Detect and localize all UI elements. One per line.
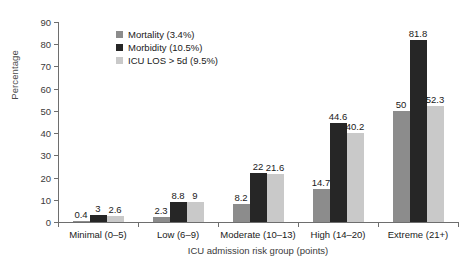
bar-value-label: 0.4	[74, 209, 87, 220]
bar[interactable]	[73, 221, 90, 222]
bar-slot: 81.8	[410, 22, 427, 222]
bar-value-label: 21.6	[266, 162, 285, 173]
bar[interactable]	[330, 123, 347, 222]
bar-value-label: 8.2	[234, 192, 247, 203]
bar-slot: 44.6	[330, 22, 347, 222]
bar[interactable]	[410, 40, 427, 222]
legend-item[interactable]: Mortality (3.4%)	[116, 29, 218, 41]
x-tick	[138, 222, 139, 227]
y-tick-label: 70	[11, 61, 51, 72]
x-axis-line	[58, 222, 459, 223]
x-tick	[378, 222, 379, 227]
x-tick	[458, 222, 459, 227]
bar[interactable]	[170, 202, 187, 222]
bar-slot: 50	[393, 22, 410, 222]
bar-value-label: 2.6	[108, 204, 121, 215]
bar-slot: 3	[90, 22, 107, 222]
bar-chart: Percentage 0102030405060708090 0.432.6Mi…	[0, 0, 465, 267]
y-tick-label: 60	[11, 83, 51, 94]
bar[interactable]	[250, 173, 267, 222]
legend-swatch-icon	[116, 44, 123, 51]
bar-value-label: 22	[253, 161, 264, 172]
bar-value-label: 14.7	[312, 177, 331, 188]
bar[interactable]	[427, 106, 444, 222]
bar[interactable]	[313, 189, 330, 222]
bar[interactable]	[393, 111, 410, 222]
legend-label: ICU LOS > 5d (9.5%)	[128, 55, 218, 66]
legend-swatch-icon	[116, 31, 123, 38]
bar-value-label: 44.6	[329, 111, 348, 122]
legend: Mortality (3.4%)Morbidity (10.5%)ICU LOS…	[116, 29, 218, 68]
y-tick-label: 20	[11, 172, 51, 183]
bar-slot: 52.3	[427, 22, 444, 222]
bar-slot: 40.2	[347, 22, 364, 222]
bar-slot: 21.6	[267, 22, 284, 222]
x-tick-label: Extreme (21+)	[388, 229, 448, 240]
bar-value-label: 8.8	[171, 190, 184, 201]
legend-label: Morbidity (10.5%)	[128, 42, 202, 53]
y-tick-label: 80	[11, 39, 51, 50]
bar[interactable]	[107, 216, 124, 222]
bar[interactable]	[347, 133, 364, 222]
bar-value-label: 2.3	[154, 205, 167, 216]
bar-slot: 0.4	[73, 22, 90, 222]
y-tick-label: 40	[11, 128, 51, 139]
x-tick-label: Moderate (10–13)	[220, 229, 296, 240]
bar-value-label: 81.8	[409, 28, 428, 39]
y-tick-label: 10	[11, 194, 51, 205]
bar[interactable]	[90, 215, 107, 222]
bar-group: 14.744.640.2High (14–20)	[298, 22, 378, 222]
y-tick-label: 50	[11, 105, 51, 116]
x-tick-label: High (14–20)	[311, 229, 366, 240]
bar-value-label: 3	[95, 203, 100, 214]
x-tick	[58, 222, 59, 227]
legend-label: Mortality (3.4%)	[128, 29, 195, 40]
bar-value-label: 9	[192, 190, 197, 201]
bar[interactable]	[187, 202, 204, 222]
bar[interactable]	[267, 174, 284, 222]
legend-item[interactable]: ICU LOS > 5d (9.5%)	[116, 55, 218, 67]
x-tick	[298, 222, 299, 227]
x-tick-label: Low (6–9)	[157, 229, 199, 240]
bar-slot: 22	[250, 22, 267, 222]
bar-value-label: 40.2	[346, 121, 365, 132]
bar-group: 5081.852.3Extreme (21+)	[378, 22, 458, 222]
bar[interactable]	[233, 204, 250, 222]
legend-item[interactable]: Morbidity (10.5%)	[116, 42, 218, 54]
y-tick-label: 30	[11, 150, 51, 161]
bar-slot: 14.7	[313, 22, 330, 222]
y-tick-label: 0	[11, 217, 51, 228]
bar-value-label: 52.3	[426, 94, 445, 105]
x-tick-label: Minimal (0–5)	[69, 229, 127, 240]
bar-group: 8.22221.6Moderate (10–13)	[218, 22, 298, 222]
bar-slot: 8.2	[233, 22, 250, 222]
legend-swatch-icon	[116, 57, 123, 64]
bar[interactable]	[153, 217, 170, 222]
x-tick	[218, 222, 219, 227]
x-axis-title: ICU admission risk group (points)	[58, 245, 458, 256]
bar-value-label: 50	[396, 99, 407, 110]
y-tick-label: 90	[11, 17, 51, 28]
